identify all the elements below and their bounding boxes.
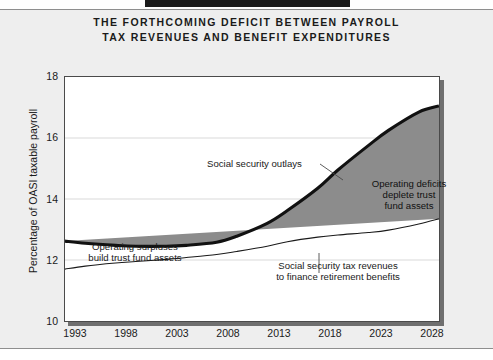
top-black-bar: [145, 0, 350, 7]
y-tick-18: 18: [22, 70, 58, 82]
y-tick-12: 12: [22, 254, 58, 266]
y-axis-title: Percentage of OASI taxable payroll: [27, 76, 39, 306]
annotation-revenue-line-2: to finance retirement benefits: [263, 271, 413, 282]
x-tick-2023: 2023: [359, 327, 403, 339]
annotation-deficit-line-3: fund assets: [359, 200, 459, 211]
bottom-divider-rule: [0, 348, 493, 349]
y-tick-16: 16: [22, 131, 58, 143]
chart-title: THE FORTHCOMING DEFICIT BETWEEN PAYROLL …: [0, 15, 493, 45]
annotation-revenue-line-1: Social security tax revenues: [263, 260, 413, 271]
x-tick-1998: 1998: [104, 327, 148, 339]
x-tick-2028: 2028: [410, 327, 454, 339]
chart-title-line-2: TAX REVENUES AND BENEFIT EXPENDITURES: [0, 30, 493, 45]
y-tick-10: 10: [22, 315, 58, 327]
annotation-deficit: Operating deficits deplete trust fund as…: [359, 178, 459, 211]
annotation-surplus: Operating surpluses build trust fund ass…: [74, 241, 196, 263]
x-tick-2008: 2008: [206, 327, 250, 339]
deficit-surplus-area: [65, 106, 439, 246]
annotation-deficit-line-1: Operating deficits: [359, 178, 459, 189]
annotation-revenue: Social security tax revenues to finance …: [263, 260, 413, 282]
x-tick-2013: 2013: [257, 327, 301, 339]
annotation-surplus-line-2: build trust fund assets: [74, 252, 196, 263]
annotation-surplus-line-1: Operating surpluses: [74, 241, 196, 252]
y-tick-14: 14: [22, 193, 58, 205]
x-tick-2003: 2003: [155, 327, 199, 339]
chart-title-line-1: THE FORTHCOMING DEFICIT BETWEEN PAYROLL: [93, 16, 399, 28]
chart-page: THE FORTHCOMING DEFICIT BETWEEN PAYROLL …: [0, 0, 493, 360]
annotation-deficit-line-2: deplete trust: [359, 189, 459, 200]
x-tick-1993: 1993: [53, 327, 97, 339]
x-tick-2018: 2018: [308, 327, 352, 339]
annotation-outlays: Social security outlays: [207, 158, 302, 169]
